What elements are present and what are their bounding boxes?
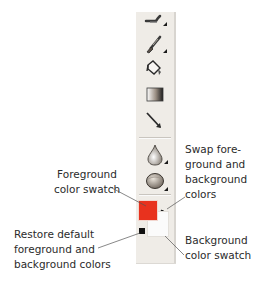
line-tool-button[interactable]	[136, 109, 174, 131]
callout-text: color swatch	[185, 248, 251, 263]
submenu-indicator-icon	[163, 49, 167, 53]
callout-text: Restore default	[14, 227, 111, 242]
callout-text: Foreground	[47, 167, 127, 182]
callout-text: colors	[185, 187, 247, 202]
toolbar-separator	[139, 194, 171, 196]
blur-tool-button[interactable]	[136, 143, 174, 165]
sponge-tool-button[interactable]	[136, 169, 174, 191]
gradient-icon	[136, 84, 174, 106]
callout-text: color swatch	[47, 182, 127, 197]
callout-text: foreground and	[14, 242, 111, 257]
foreground-color-swatch[interactable]	[139, 201, 157, 220]
default-foreground-black-icon	[139, 228, 145, 234]
swap-colors-callout: Swap fore- ground and background colors	[185, 142, 247, 202]
foreground-swatch-callout: Foreground color swatch	[47, 167, 127, 197]
paint-bucket-tool-button[interactable]	[136, 57, 174, 79]
background-swatch-callout: Background color swatch	[185, 233, 251, 263]
submenu-indicator-icon	[163, 22, 167, 26]
water-drop-icon	[136, 143, 174, 167]
callout-text: background	[185, 172, 247, 187]
smudge-tool-button[interactable]	[136, 12, 174, 34]
gradient-tool-button[interactable]	[136, 84, 174, 106]
line-arrow-icon	[136, 109, 174, 133]
submenu-indicator-icon	[164, 187, 168, 191]
brush-tool-button[interactable]	[136, 34, 174, 56]
callout-text: Swap fore-	[185, 142, 247, 157]
callout-text: ground and	[185, 157, 247, 172]
paint-bucket-icon	[136, 57, 174, 79]
toolbar-separator	[139, 137, 171, 139]
restore-default-callout: Restore default foreground and backgroun…	[14, 227, 111, 272]
tool-palette	[136, 12, 176, 263]
callout-text: background colors	[14, 257, 111, 272]
smudge-icon	[136, 12, 174, 34]
paintbrush-icon	[136, 34, 174, 56]
callout-text: Background	[185, 233, 251, 248]
submenu-indicator-icon	[164, 160, 168, 164]
sponge-icon	[136, 169, 174, 193]
